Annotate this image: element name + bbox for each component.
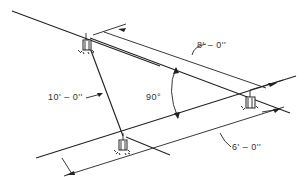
lower-branch-line bbox=[126, 137, 170, 155]
sprinkler-head-bottom-icon bbox=[114, 133, 130, 155]
upper-pipe-line bbox=[90, 38, 290, 113]
diagonal-10ft-line bbox=[87, 40, 123, 136]
dim-8ft-extension-right bbox=[250, 80, 283, 90]
dim-8ft-arrow-left-icon bbox=[118, 28, 126, 32]
angle-arrow-bottom-icon bbox=[174, 112, 180, 119]
angle-label: 90° bbox=[146, 93, 161, 102]
sprinkler-layout-diagram: 8' – 0'' 10' – 0'' 90° 6' – 0'' bbox=[0, 0, 307, 177]
sprinkler-head-right-icon bbox=[241, 91, 258, 110]
dim-6ft-extension-left bbox=[62, 158, 72, 174]
dim-8ft-label: 8' – 0'' bbox=[197, 41, 226, 50]
dim-6ft-arrow-right-icon bbox=[273, 108, 281, 113]
dim-10ft-label: 10' – 0'' bbox=[48, 93, 83, 102]
dim-6ft-label-leader bbox=[220, 133, 231, 147]
angle-arc bbox=[171, 68, 178, 118]
dim-8ft-line bbox=[104, 32, 266, 88]
dim-8ft-arrow-right-icon bbox=[268, 83, 277, 87]
dim-6ft-label: 6' – 0'' bbox=[232, 143, 261, 152]
